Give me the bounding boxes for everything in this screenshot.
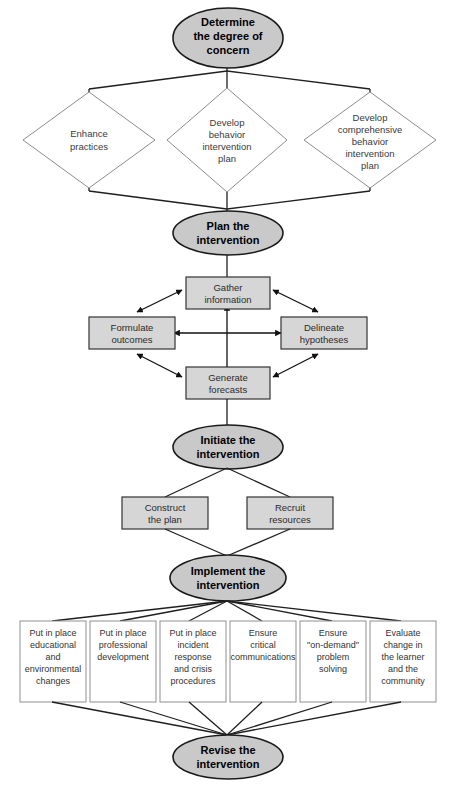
box-label-line: and the [388,664,418,674]
box-label-line: and crisis [174,664,213,674]
oval-label-line: concern [207,44,250,56]
cluster-box-gather-information[interactable]: Gather information [186,277,270,309]
box-label-line: the learner [381,652,424,662]
connectors-implementation-boxes-to-revise [52,702,401,735]
stage-oval-determine[interactable]: Determine the degree of concern [173,8,283,68]
initiate-box-construct-the-plan[interactable]: Construct the plan [122,497,208,529]
box-label-line: response [174,652,211,662]
box-label-line: resources [269,514,311,525]
box-label-line: change in [383,640,422,650]
connectors-initiate-to-boxes [165,468,290,497]
box-label-line: Delineate [304,322,344,333]
diamond-label-line: intervention [345,148,394,159]
box-label-line: environmental [25,664,82,674]
implementation-box-critical-communications[interactable]: Ensure critical communications [230,621,296,702]
implementation-box-educational-environmental[interactable]: Put in place educational and environment… [20,621,86,702]
box-label-line: Put in place [169,628,216,638]
diamond-develop-comprehensive-behavior-intervention-plan[interactable]: Develop comprehensive behavior intervent… [304,92,436,188]
box-label-line: Ensure [319,628,348,638]
box-label-line: Recruit [275,502,305,513]
initiate-box-recruit-resources[interactable]: Recruit resources [247,497,333,529]
diamond-label-line: behavior [209,129,245,140]
diamond-label-line: intervention [202,141,251,152]
connectors-boxes-to-implement [165,529,290,556]
box-label-line: changes [36,676,71,686]
oval-label-line: the degree of [193,30,262,42]
box-label-line: information [205,294,252,305]
implementation-box-incident-response[interactable]: Put in place incident response and crisi… [160,621,226,702]
oval-label-line: Determine [201,16,255,28]
diamond-develop-behavior-intervention-plan[interactable]: Develop behavior intervention plan [167,88,287,192]
cluster-box-formulate-outcomes[interactable]: Formulate outcomes [89,317,175,349]
stage-oval-initiate[interactable]: Initiate the intervention [173,425,283,469]
box-label-line: development [97,652,149,662]
oval-label-line: Revise the [200,744,255,756]
box-label-line: Put in place [29,628,76,638]
oval-label-line: Plan the [207,220,250,232]
oval-label-line: intervention [197,234,260,246]
stage-oval-revise[interactable]: Revise the intervention [173,735,283,779]
box-label-line: communications [230,652,296,662]
diamond-label-line: behavior [352,136,388,147]
diamond-label-line: practices [70,141,108,152]
box-label-line: procedures [170,676,216,686]
oval-label-line: intervention [197,579,260,591]
flowchart-diagram: Enhance practices Develop behavior inter… [0,0,454,793]
box-label-line: forecasts [209,384,248,395]
box-label-line: Formulate [111,322,154,333]
oval-label-line: Initiate the [200,434,255,446]
diamond-enhance-practices[interactable]: Enhance practices [23,92,155,188]
box-label-line: "on-demand" [307,640,359,650]
oval-label-line: intervention [197,758,260,770]
flowchart-canvas: Enhance practices Develop behavior inter… [0,0,454,793]
box-label-line: solving [319,664,347,674]
box-label-line: Gather [213,282,242,293]
connectors-implement-to-implementation-boxes [52,601,401,621]
diamond-label-line: Enhance [70,128,108,139]
diamond-label-line: comprehensive [338,124,402,135]
oval-label-line: intervention [197,448,260,460]
connectors-determine-to-diamonds [89,67,370,92]
connectors-diamonds-to-plan [89,188,370,213]
diamond-label-line: plan [218,153,236,164]
box-label-line: Evaluate [385,628,420,638]
cluster-box-delineate-hypotheses[interactable]: Delineate hypotheses [281,317,367,349]
stage-oval-plan[interactable]: Plan the intervention [173,211,283,255]
box-label-line: Put in place [99,628,146,638]
box-label-line: the plan [148,514,182,525]
cluster-box-generate-forecasts[interactable]: Generate forecasts [186,367,270,399]
box-label-line: community [381,676,425,686]
implementation-box-professional-development[interactable]: Put in place professional development [90,621,156,702]
box-label-line: outcomes [111,334,152,345]
box-label-line: problem [317,652,350,662]
box-label-line: incident [177,640,209,650]
diamond-label-line: plan [361,160,379,171]
implementation-box-on-demand-problem-solving[interactable]: Ensure "on-demand" problem solving [300,621,366,702]
box-label-line: critical [250,640,276,650]
box-label-line: Generate [208,372,248,383]
diamond-label-line: Develop [353,112,388,123]
box-label-line: Ensure [249,628,278,638]
diamond-label-line: Develop [210,117,245,128]
box-label-line: professional [99,640,148,650]
stage-oval-implement[interactable]: Implement the intervention [170,555,286,601]
clipped-caption [0,781,454,793]
box-label-line: Construct [145,502,186,513]
box-label-line: and [45,652,60,662]
box-label-line: educational [30,640,76,650]
box-label-line: hypotheses [300,334,349,345]
implementation-box-evaluate-change[interactable]: Evaluate change in the learner and the c… [370,621,436,702]
oval-label-line: Implement the [191,565,266,577]
